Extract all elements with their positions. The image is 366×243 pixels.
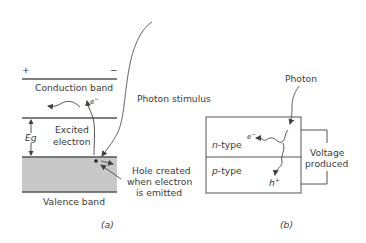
gap-arrow-down-icon (29, 151, 34, 156)
gap-arrow-up-icon (29, 119, 34, 124)
panel-a-band-diagram: + − Conduction band e− Eg Excited electr… (22, 22, 211, 230)
photon-arrow (290, 86, 299, 124)
excited-label-line1: Excited (55, 124, 89, 135)
hole-label-line2: when electron (127, 176, 192, 187)
voltage-bracket-top (301, 130, 327, 143)
photon-stimulus-label: Photon stimulus (137, 93, 211, 104)
hole-label-line3: is emitted (136, 187, 182, 198)
panel-b-pn-junction: Photon n-type p-type e− h+ Voltage produ… (206, 73, 348, 230)
junction-box (206, 117, 301, 193)
electron-path-arrow (48, 101, 80, 107)
photon-label: Photon (285, 73, 317, 84)
caption-a: (a) (101, 219, 114, 230)
voltage-label-line2: produced (305, 158, 348, 169)
electron-label-b: e− (247, 131, 256, 141)
hole-label-b: h+ (269, 176, 280, 188)
hole-path-b (275, 143, 284, 175)
voltage-bracket-bottom (301, 171, 327, 184)
n-type-label: n-type (212, 139, 242, 150)
hole-label-line1: Hole created (132, 165, 191, 176)
conduction-band-label: Conduction band (35, 82, 113, 93)
minus-sign: − (110, 64, 118, 75)
electron-path-b (256, 130, 288, 142)
valence-band-label: Valence band (43, 196, 105, 207)
valence-band-region (22, 157, 117, 192)
caption-b: (b) (280, 219, 293, 230)
electron-label-a: e− (90, 96, 99, 106)
plus-sign: + (22, 64, 30, 75)
photovoltaic-diagram: + − Conduction band e− Eg Excited electr… (0, 0, 366, 243)
excited-label-line2: electron (53, 136, 91, 147)
voltage-label-line1: Voltage (310, 147, 345, 158)
band-gap-label: Eg (25, 132, 37, 143)
p-type-label: p-type (211, 165, 242, 176)
hole-dot (94, 159, 98, 163)
